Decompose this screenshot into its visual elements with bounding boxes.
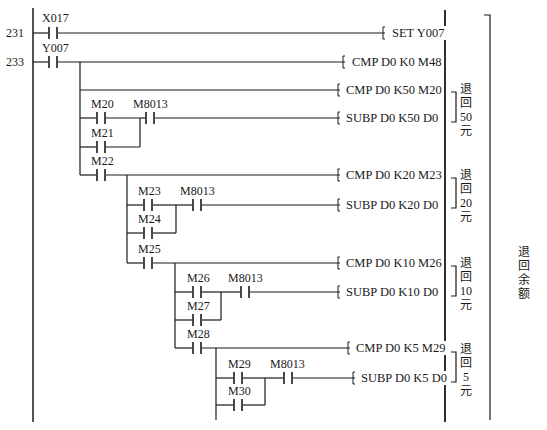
contact-m21-icon (97, 141, 105, 153)
contact-label-m8013: M8013 (133, 98, 168, 110)
contact-label-m20: M20 (91, 98, 114, 110)
bracket-5 (451, 352, 456, 382)
bracket-20 (451, 178, 456, 208)
contact-label-m8013: M8013 (270, 358, 305, 370)
step-number-231: 231 (6, 27, 24, 39)
contact-symbols (49, 27, 292, 411)
instruction-cmp-k10: CMP D0 K10 M26 (344, 256, 444, 270)
instruction-subp-k10: SUBP D0 K10 D0 (344, 285, 440, 299)
contact-m23-icon (144, 199, 152, 211)
step-number-233: 233 (6, 56, 24, 68)
contact-label-m24: M24 (138, 213, 161, 225)
annotation-return-50: 退回50元 (459, 82, 473, 138)
contact-label-m8013: M8013 (180, 185, 215, 197)
instruction-cmp-k0: CMP D0 K0 M48 (350, 55, 443, 69)
instruction-set-y007: SET Y007 (390, 26, 446, 40)
contact-label-m8013: M8013 (228, 272, 263, 284)
contact-label-m27: M27 (187, 300, 210, 312)
outer-bracket (484, 15, 490, 420)
contact-label-m30: M30 (228, 385, 251, 397)
contact-x017-icon (49, 27, 57, 39)
contact-label-x017: X017 (42, 12, 69, 24)
contact-m8013-icon (193, 199, 201, 211)
bracket-10 (451, 266, 456, 296)
contact-label-y007: Y007 (42, 42, 69, 54)
instruction-cmp-k20: CMP D0 K20 M23 (344, 168, 444, 182)
contact-m8013-icon (284, 372, 292, 384)
annotation-return-20: 退回20元 (459, 168, 473, 224)
contact-m30-icon (234, 399, 242, 411)
instruction-subp-k5: SUBP D0 K5 D0 (359, 371, 449, 385)
instruction-cmp-k5: CMP D0 K5 M29 (354, 341, 447, 355)
contact-m24-icon (144, 227, 152, 239)
contact-label-m26: M26 (187, 272, 210, 284)
contact-label-m23: M23 (138, 185, 161, 197)
contact-label-m29: M29 (228, 358, 251, 370)
contact-label-m22: M22 (91, 155, 114, 167)
contact-m8013-icon (146, 112, 154, 124)
contact-label-m28: M28 (187, 328, 210, 340)
instruction-subp-k20: SUBP D0 K20 D0 (344, 198, 440, 212)
contact-m26-icon (193, 286, 201, 298)
contact-label-m21: M21 (91, 127, 114, 139)
annotation-return-10: 退回10元 (459, 256, 473, 312)
annotation-return-5: 退回5元 (459, 342, 473, 398)
contact-y007-icon (49, 56, 57, 68)
bracket-50 (451, 92, 456, 122)
contact-m28-icon (193, 342, 201, 354)
instruction-subp-k50: SUBP D0 K50 D0 (344, 111, 440, 125)
contact-m20-icon (97, 112, 105, 124)
contact-m25-icon (144, 257, 152, 269)
contact-m22-icon (97, 169, 105, 181)
contact-m27-icon (193, 314, 201, 326)
contact-m29-icon (234, 372, 242, 384)
instruction-cmp-k50: CMP D0 K50 M20 (344, 83, 444, 97)
annotation-return-balance: 退回余额 (517, 245, 531, 301)
contact-label-m25: M25 (138, 243, 161, 255)
contact-m8013-icon (241, 286, 249, 298)
